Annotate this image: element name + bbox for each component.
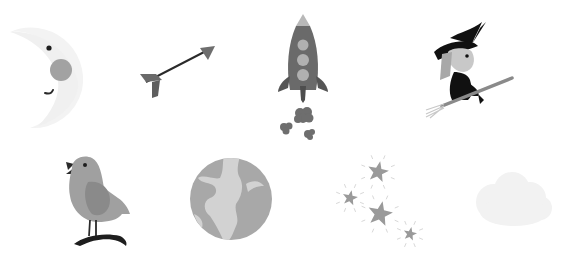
star-shape [369,201,393,226]
star-shape [368,161,389,182]
sparkle-ray [344,184,346,188]
bird-icon [60,152,140,248]
sparkle-ray [386,229,388,233]
sparkle-ray [371,155,373,159]
sparkle-ray [362,220,366,222]
sparkle-ray [354,184,356,188]
sparkle-ray [405,221,407,225]
star-shape [404,227,417,240]
sparkle-ray [414,221,416,225]
sparkle-ray [383,185,385,189]
star-shape [343,190,358,205]
sparkle-ray [344,208,346,212]
sparkle-ray [354,208,356,212]
sparkle-ray [397,229,401,231]
sparkle-ray [395,207,399,209]
sparkle-ray [391,165,395,167]
sparkle-ray [371,185,373,189]
sparkle-ray [386,196,388,200]
sparkle-ray [362,206,366,208]
sparkle-ray [372,229,374,233]
sparkle-ray [391,178,395,180]
rocket-icon [272,8,336,138]
sparkle-ray [361,177,365,179]
moon-icon [0,20,90,130]
arrow-icon [138,44,218,100]
cloud-icon [470,168,560,232]
sparkle-ray [419,229,423,231]
stars-icon [334,152,430,248]
sparkle-ray [373,196,375,200]
sparkle-ray [419,238,423,240]
sparkle-ray [395,220,399,222]
sparkle-ray [360,192,364,194]
earth-icon [188,156,274,242]
witch-icon [420,18,520,118]
sparkle-ray [405,243,407,247]
sparkle-ray [361,165,365,167]
sparkle-ray [414,243,416,247]
sparkle-ray [360,202,364,204]
sparkle-ray [336,192,340,194]
sparkle-ray [397,238,401,240]
sparkle-ray [336,202,340,204]
sparkle-ray [384,155,386,159]
